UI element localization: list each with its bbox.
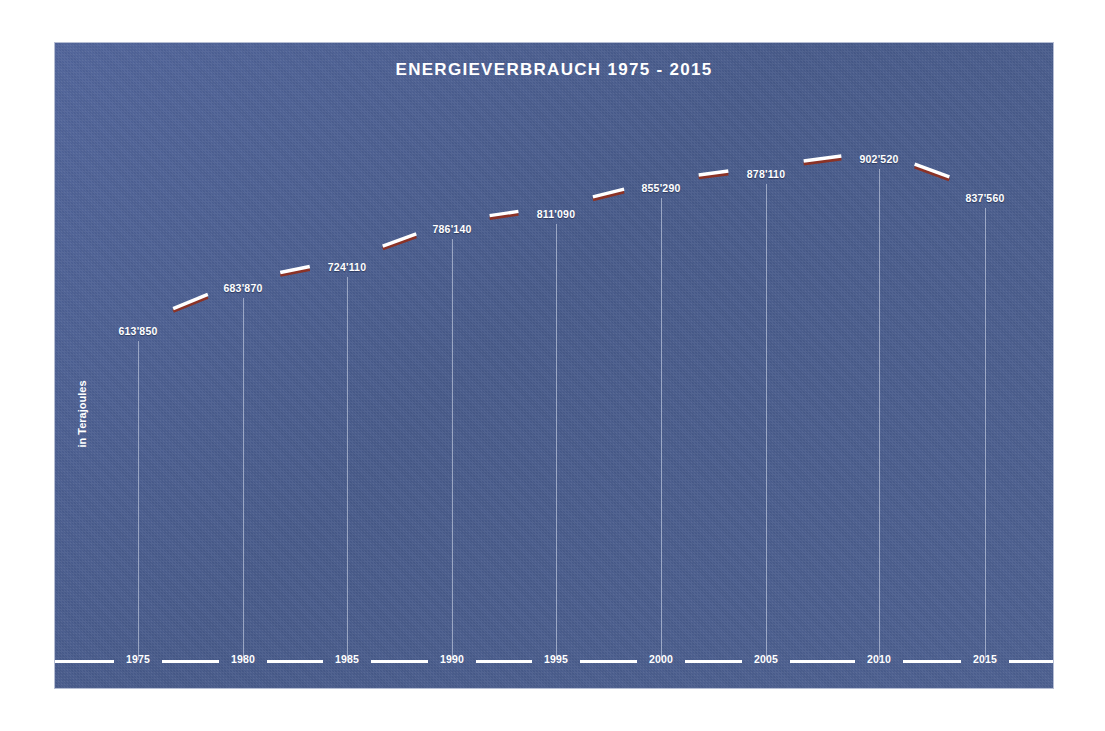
axis-segment-end (1009, 660, 1053, 663)
drop-line-1980 (243, 298, 244, 660)
line-segment-2010-2015 (915, 164, 950, 179)
drop-line-1990 (452, 239, 453, 660)
line-segment-1995-2000 (593, 189, 624, 199)
drop-line-2010 (879, 169, 880, 660)
x-tick-1990: 1990 (440, 653, 464, 665)
value-label-2015: 837'560 (966, 192, 1005, 204)
value-label-1985: 724'110 (328, 261, 366, 273)
x-tick-1995: 1995 (544, 653, 568, 665)
line-segment-1985-1990 (383, 234, 417, 249)
value-label-1990: 786'140 (433, 223, 472, 235)
value-label-1975: 613'850 (119, 325, 158, 337)
x-tick-2015: 2015 (973, 653, 997, 665)
x-tick-2010: 2010 (867, 653, 891, 665)
line-segment-2000-2005 (699, 171, 729, 178)
x-tick-1985: 1985 (335, 653, 359, 665)
x-axis: 197519801985199019952000200520102015 (55, 638, 1053, 688)
axis-segment-1990-1995 (476, 660, 532, 663)
line-segment-1980-1985 (280, 267, 310, 276)
axis-segment-start (55, 660, 114, 663)
drop-line-1995 (556, 224, 557, 660)
line-segment-1990-1995 (490, 211, 519, 218)
axis-segment-2005-2010 (790, 660, 855, 663)
line-segment-1975-1980 (173, 294, 208, 311)
drop-line-2015 (985, 208, 986, 660)
line-series-ribbon (55, 43, 1053, 688)
x-tick-2000: 2000 (649, 653, 673, 665)
value-label-1980: 683'870 (224, 282, 263, 294)
axis-segment-1985-1990 (371, 660, 428, 663)
chart-panel: ENERGIEVERBRAUCH 1975 - 2015 in Terajoul… (55, 43, 1053, 688)
line-segment-2005-2010 (804, 156, 842, 164)
axis-segment-1980-1985 (267, 660, 323, 663)
x-tick-2005: 2005 (754, 653, 778, 665)
drop-line-1985 (347, 277, 348, 660)
axis-segment-1995-2000 (580, 660, 637, 663)
x-tick-1975: 1975 (126, 653, 150, 665)
value-label-2000: 855'290 (642, 182, 681, 194)
x-tick-1980: 1980 (231, 653, 255, 665)
drop-line-2000 (661, 198, 662, 660)
axis-segment-2000-2005 (685, 660, 742, 663)
axis-segment-1975-1980 (162, 660, 219, 663)
drop-line-2005 (766, 184, 767, 660)
axis-segment-2010-2015 (903, 660, 961, 663)
value-label-2005: 878'110 (747, 168, 785, 180)
plot-area: 613'850683'870724'110786'140811'090855'2… (55, 43, 1053, 688)
chart-page: ENERGIEVERBRAUCH 1975 - 2015 in Terajoul… (0, 0, 1105, 731)
value-label-1995: 811'090 (537, 208, 575, 220)
value-label-2010: 902'520 (860, 153, 899, 165)
drop-line-1975 (138, 341, 139, 660)
